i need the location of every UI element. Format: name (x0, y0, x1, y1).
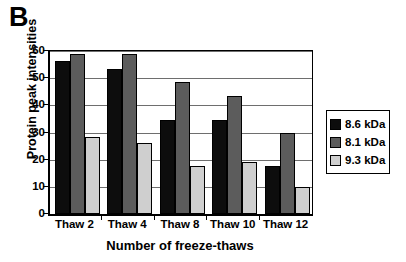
y-tick-label: 30 (22, 126, 45, 138)
x-tick-label: Thaw 8 (154, 218, 207, 231)
y-tick-label: 20 (22, 153, 45, 165)
bar (175, 82, 190, 214)
bar (160, 120, 175, 214)
bar (85, 137, 100, 214)
bar (137, 143, 152, 214)
legend-item: 8.6 kDa (330, 115, 385, 133)
y-tick-mark (43, 77, 48, 78)
bar-group (207, 51, 259, 214)
y-tick-mark (43, 186, 48, 187)
legend-label: 8.1 kDa (345, 136, 385, 148)
y-tick-mark (43, 132, 48, 133)
bar-groups (50, 51, 312, 214)
bar-group (260, 51, 312, 214)
bar (190, 166, 205, 214)
bar (55, 61, 70, 214)
x-axis-tick-labels: Thaw 2Thaw 4Thaw 8Thaw 10Thaw 12 (48, 218, 312, 231)
legend-item: 8.1 kDa (330, 133, 385, 151)
y-tick-label: 10 (22, 180, 45, 192)
bar (227, 96, 242, 214)
legend-label: 8.6 kDa (345, 118, 385, 130)
bar-group (50, 51, 102, 214)
plot-area (48, 50, 313, 216)
legend-swatch-icon (330, 119, 341, 130)
legend-swatch-icon (330, 137, 341, 148)
legend-swatch-icon (330, 155, 341, 166)
x-tick-label: Thaw 10 (206, 218, 259, 231)
y-tick-label: 50 (22, 71, 45, 83)
figure-panel-b: B Protein peak intensities 0102030405060… (0, 0, 406, 262)
legend-label: 9.3 kDa (345, 154, 385, 166)
y-tick-label: 0 (22, 207, 45, 219)
bar-group (155, 51, 207, 214)
bar (295, 187, 310, 214)
bar (265, 166, 280, 214)
bar (70, 54, 85, 214)
x-tick-label: Thaw 4 (101, 218, 154, 231)
legend-item: 9.3 kDa (330, 151, 385, 169)
y-tick-label: 60 (22, 44, 45, 56)
y-tick-label: 40 (22, 98, 45, 110)
x-tick-label: Thaw 2 (48, 218, 101, 231)
bar (242, 162, 257, 214)
x-axis-title: Number of freeze-thaws (40, 238, 320, 253)
bar (122, 54, 137, 214)
bar (280, 133, 295, 215)
bar (212, 120, 227, 214)
bar (107, 69, 122, 214)
x-tick-label: Thaw 12 (259, 218, 312, 231)
bar-group (102, 51, 154, 214)
y-tick-mark (43, 159, 48, 160)
y-tick-mark (43, 104, 48, 105)
y-axis-tick-labels: 0102030405060 (22, 44, 45, 220)
y-tick-mark (43, 213, 48, 214)
chart-legend: 8.6 kDa8.1 kDa9.3 kDa (326, 110, 390, 174)
y-tick-mark (43, 50, 48, 51)
